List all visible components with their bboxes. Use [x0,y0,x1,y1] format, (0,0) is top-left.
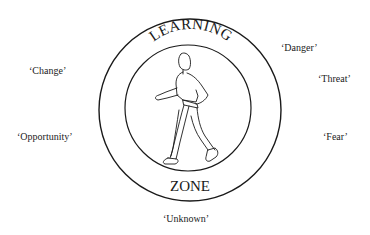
walking-person-icon [155,53,217,164]
learning-zone-diagram: LEARNING ZONE [0,0,370,235]
label-change: ‘Change’ [29,65,66,76]
label-fear: ‘Fear’ [323,131,348,142]
label-danger: ‘Danger’ [281,42,317,53]
label-unknown: ‘Unknown’ [163,213,209,224]
label-opportunity: ‘Opportunity’ [17,131,73,142]
outer-circle [99,19,281,201]
inner-circle [125,45,251,171]
title-bottom: ZONE [170,178,210,194]
label-threat: ‘Threat’ [318,73,351,84]
title-top: LEARNING [146,16,235,45]
